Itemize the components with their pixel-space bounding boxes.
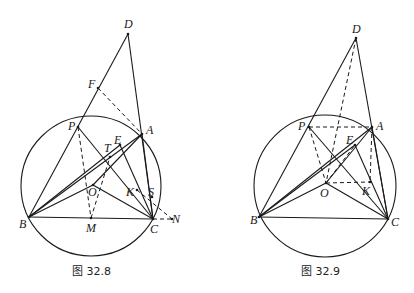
point-label-S: S	[148, 185, 154, 199]
segment-AK	[370, 127, 372, 182]
point-T	[109, 156, 112, 159]
point-label-K: K	[361, 184, 371, 198]
segment-BO	[29, 185, 93, 217]
point-label-M: M	[85, 221, 97, 235]
point-B	[258, 216, 261, 219]
point-labels: DFPAETOKSBMCN	[19, 17, 181, 236]
point-label-P: P	[67, 119, 76, 133]
segment-BA	[29, 134, 142, 217]
point-label-O: O	[320, 186, 329, 200]
segment-FA	[98, 88, 142, 134]
segment-OC	[326, 183, 388, 219]
segment-OK	[326, 182, 370, 183]
point-label-C: C	[150, 222, 159, 236]
point-D	[355, 37, 358, 40]
point-label-E: E	[345, 133, 354, 147]
point-O	[325, 182, 328, 185]
segment-BE	[29, 145, 120, 217]
point-P	[77, 126, 80, 129]
segment-EC	[355, 145, 388, 219]
point-label-D: D	[123, 17, 133, 31]
point-label-F: F	[87, 77, 96, 91]
point-B	[28, 216, 31, 219]
segment-BE	[259, 145, 355, 217]
point-C	[387, 218, 390, 221]
point-A	[141, 133, 144, 136]
point-C	[152, 218, 155, 221]
figure-32-9: DPAEOKBC 图 32.9	[250, 22, 400, 278]
point-label-D: D	[351, 22, 361, 36]
point-label-O: O	[88, 185, 97, 199]
segment-BA	[259, 127, 372, 217]
point-K	[136, 189, 139, 192]
point-label-N: N	[171, 212, 181, 226]
point-label-P: P	[297, 119, 306, 133]
point-D	[127, 33, 130, 36]
point-P	[308, 126, 311, 129]
segment-DB	[259, 38, 356, 217]
point-M	[90, 217, 93, 220]
point-label-C: C	[391, 215, 400, 229]
segment-OC	[93, 185, 153, 219]
point-A	[371, 126, 374, 129]
segment-DB	[29, 34, 128, 217]
geometry-figures: DFPAETOKSBMCN 图 32.8 DPAEOKBC 图 32.9	[0, 0, 414, 293]
point-labels: DPAEOKBC	[250, 22, 400, 229]
segment-BC	[259, 217, 388, 219]
figure-caption: 图 32.8	[72, 265, 111, 278]
point-label-K: K	[125, 185, 135, 199]
point-E	[354, 144, 357, 147]
point-K	[369, 181, 372, 184]
figure-caption: 图 32.9	[301, 265, 340, 278]
segment-DO	[326, 38, 356, 183]
point-label-E: E	[113, 133, 122, 147]
point-label-B: B	[250, 213, 258, 227]
point-F	[97, 87, 100, 90]
segment-BO	[259, 183, 326, 217]
point-label-A: A	[145, 123, 154, 137]
point-label-B: B	[19, 217, 27, 231]
figure-32-8: DFPAETOKSBMCN 图 32.8	[19, 17, 181, 278]
point-label-A: A	[375, 119, 384, 133]
